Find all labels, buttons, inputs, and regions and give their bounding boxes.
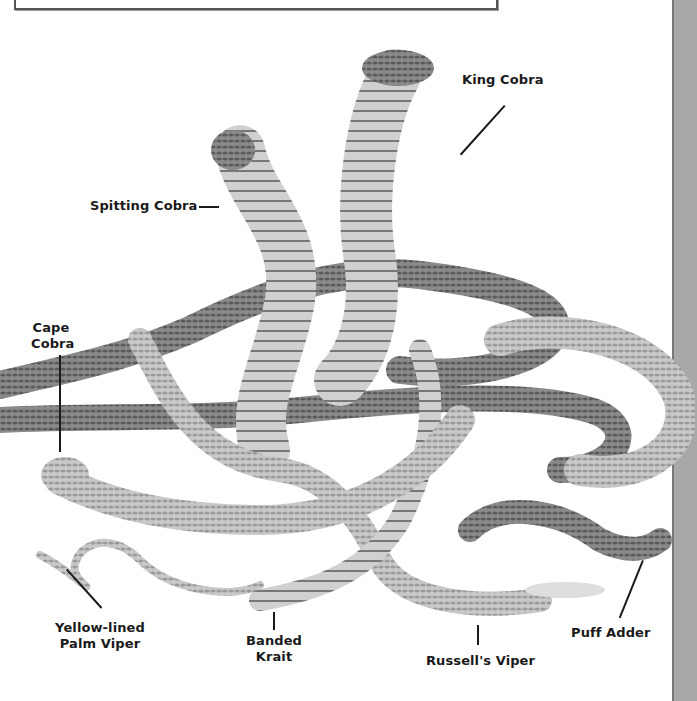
label-line: Cobra (31, 336, 71, 352)
label-line: Palm Viper (50, 636, 150, 652)
leader-russells-viper (477, 625, 479, 645)
label-king-cobra: King Cobra (462, 72, 544, 88)
label-cape-cobra: Cape Cobra (31, 320, 71, 352)
palm-viper-body (40, 543, 260, 592)
puff-adder-body (470, 512, 660, 549)
label-spitting-cobra: Spitting Cobra (90, 198, 197, 214)
label-puff-adder: Puff Adder (571, 625, 651, 641)
leader-cape-cobra (59, 355, 61, 452)
label-line: Cape (31, 320, 71, 336)
king-cobra-body (340, 75, 395, 380)
label-line: Yellow-lined (50, 620, 150, 636)
label-banded-krait: Banded Krait (244, 633, 304, 665)
label-yellow-lined-palm-viper: Yellow-lined Palm Viper (50, 620, 150, 652)
label-russells-viper: Russell's Viper (426, 653, 535, 669)
label-line: Krait (244, 649, 304, 665)
label-line: Banded (244, 633, 304, 649)
leader-banded-krait (273, 612, 275, 630)
leader-spitting-cobra (199, 206, 219, 208)
